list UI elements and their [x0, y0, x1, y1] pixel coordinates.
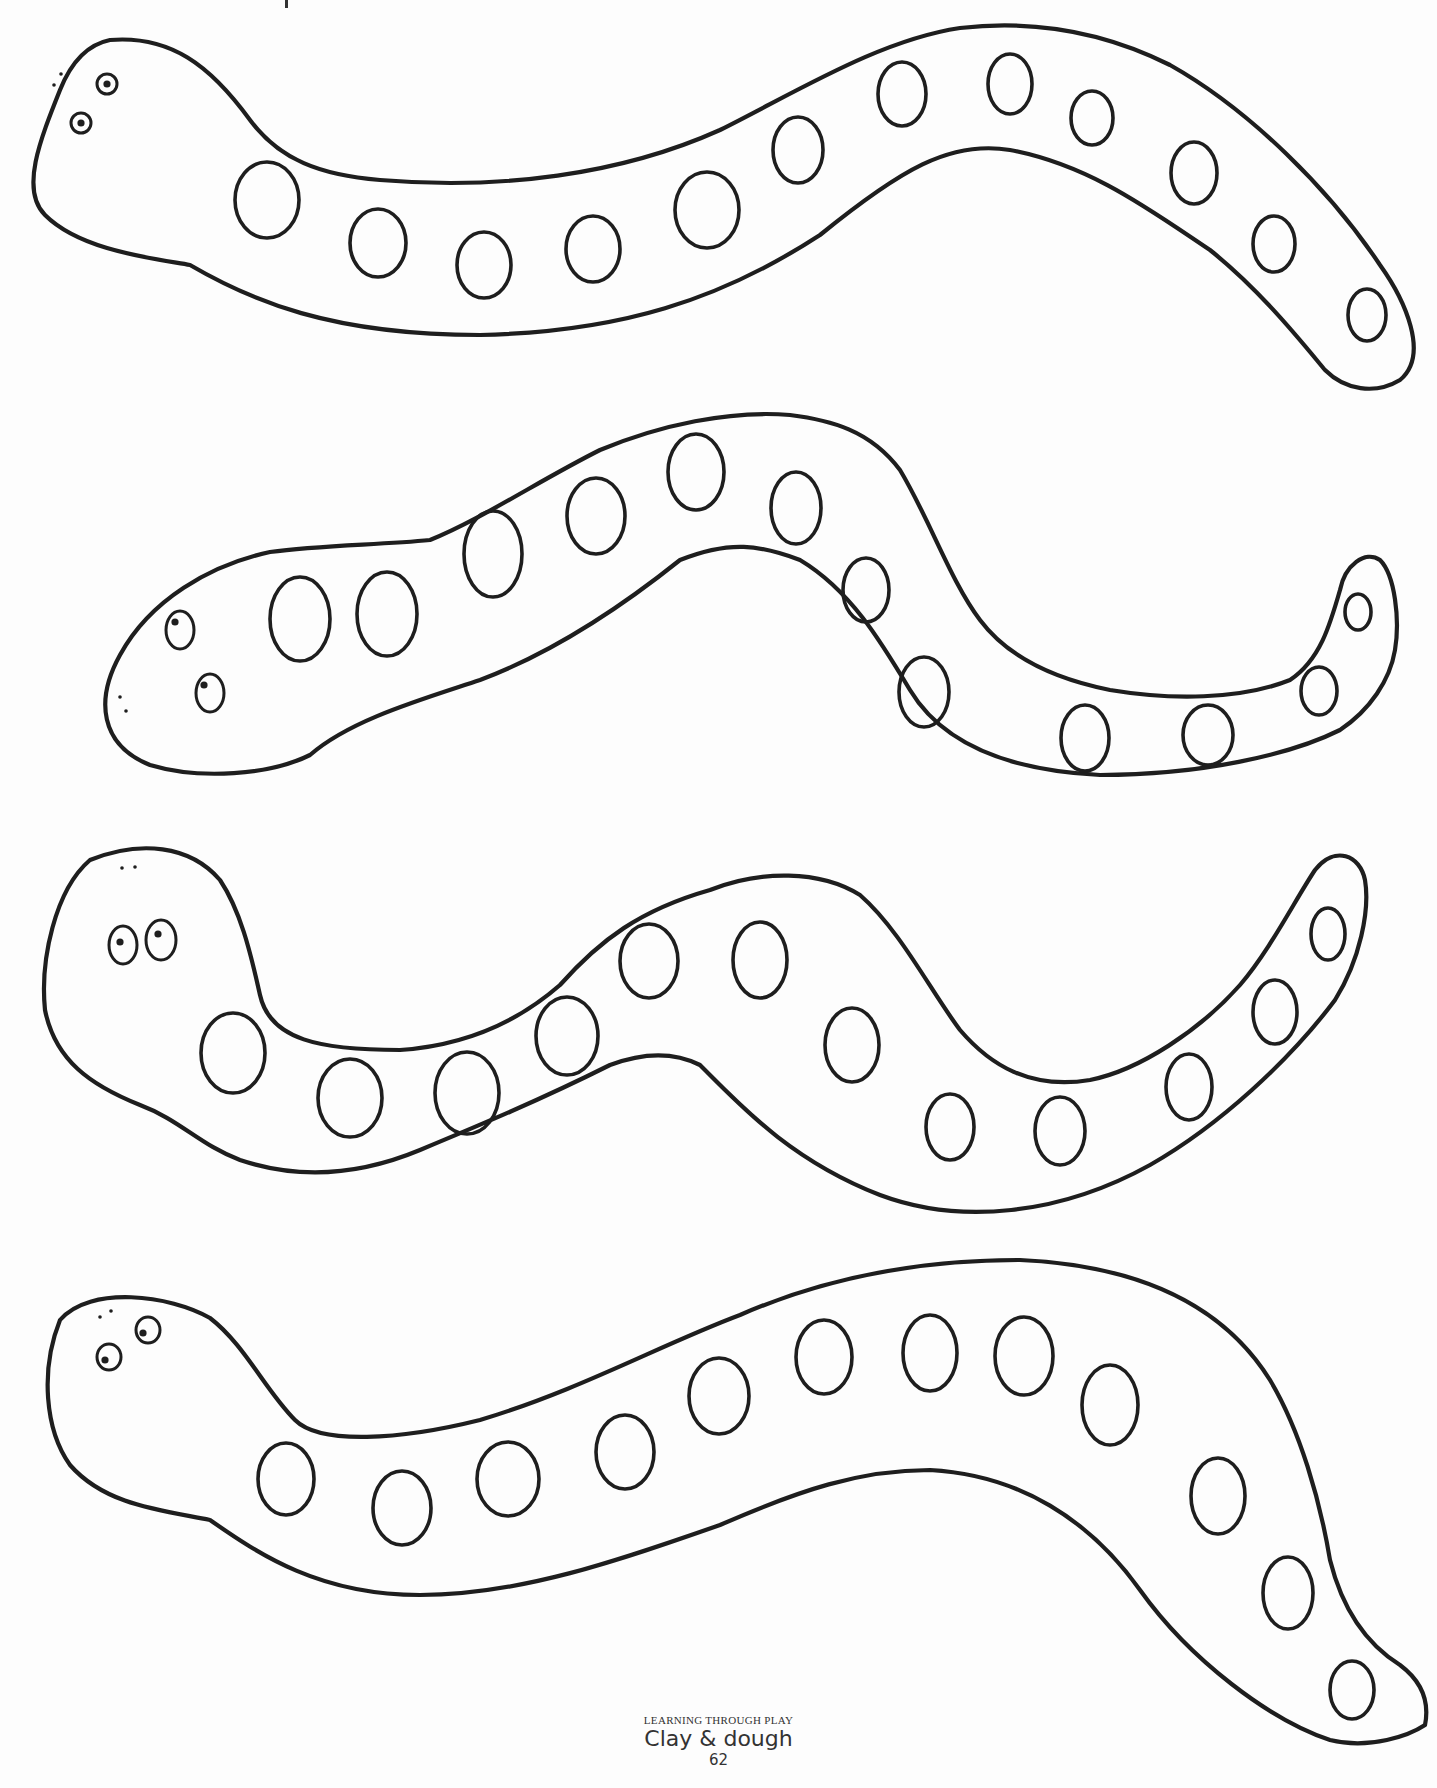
snake-nostril-dot — [133, 865, 137, 869]
snake-spot-circle — [825, 1008, 879, 1082]
top-text-fragment — [285, 0, 288, 8]
footer-page-number: 62 — [0, 1751, 1437, 1769]
snake-spot-circle — [1253, 980, 1297, 1044]
snake-eye-icon — [71, 113, 91, 133]
snake-spot-circle — [1171, 142, 1217, 204]
snake-figure — [33, 25, 1413, 388]
snake-eye-icon — [109, 926, 137, 964]
snake-eye-icon — [136, 1317, 160, 1343]
snake-nostril-dot — [118, 695, 122, 699]
snake-body-outline — [44, 848, 1366, 1212]
snake-spot-circle — [733, 922, 787, 998]
snake-nostril-dot — [109, 1309, 113, 1313]
snake-spot-circle — [668, 434, 724, 510]
snake-illustrations — [0, 0, 1437, 1788]
snake-spot-circle — [1035, 1097, 1085, 1165]
worksheet-page: LEARNING THROUGH PLAY Clay & dough 62 — [0, 0, 1437, 1788]
snake-spot-circle — [675, 172, 739, 248]
snake-spot-circle — [566, 216, 620, 282]
snake-spot-circle — [435, 1052, 499, 1134]
snake-spot-circle — [1071, 91, 1113, 145]
snake-spot-circle — [843, 558, 889, 622]
snake-spot-circle — [1311, 908, 1345, 960]
snake-spot-circle — [357, 572, 417, 656]
snake-spot-circle — [1253, 216, 1295, 272]
snake-spot-circle — [899, 657, 949, 727]
snake-eye-icon — [146, 920, 176, 960]
snake-spot-circle — [995, 1317, 1053, 1395]
snake-nostril-dot — [120, 866, 124, 870]
snake-spot-circle — [235, 162, 299, 238]
snake-spot-circle — [258, 1443, 314, 1515]
page-footer: LEARNING THROUGH PLAY Clay & dough 62 — [0, 1714, 1437, 1769]
snake-spot-circle — [903, 1315, 957, 1391]
snake-spot-circle — [201, 1013, 265, 1093]
snake-spot-circle — [878, 62, 926, 126]
snake-spot-circle — [457, 232, 511, 298]
snake-nostril-dot — [98, 1315, 102, 1319]
snake-eye-icon — [166, 611, 194, 649]
snakes-group — [33, 25, 1426, 1743]
snake-body-outline — [105, 414, 1397, 775]
snake-spot-circle — [1061, 705, 1109, 771]
snake-eye-icon — [196, 674, 224, 712]
snake-spot-circle — [567, 478, 625, 554]
snake-body-outline — [33, 25, 1413, 388]
snake-spot-circle — [620, 924, 678, 998]
snake-spot-circle — [536, 997, 598, 1075]
snake-spot-circle — [270, 577, 330, 661]
snake-spot-circle — [926, 1094, 974, 1160]
snake-spot-circle — [1301, 667, 1337, 715]
snake-spot-circle — [596, 1415, 654, 1489]
snake-figure — [44, 848, 1366, 1212]
snake-spot-circle — [1348, 289, 1386, 341]
snake-spot-circle — [689, 1358, 749, 1434]
snake-spot-circle — [477, 1442, 539, 1516]
snake-spot-circle — [350, 209, 406, 277]
snake-spot-circle — [1191, 1458, 1245, 1534]
footer-book-title: Clay & dough — [0, 1727, 1437, 1751]
snake-spot-circle — [1082, 1365, 1138, 1445]
snake-spot-circle — [464, 511, 522, 597]
snake-eye-icon — [97, 74, 117, 94]
snake-spot-circle — [318, 1059, 382, 1137]
snake-spot-circle — [771, 472, 821, 544]
snake-figure — [105, 414, 1397, 775]
snake-spot-circle — [1263, 1557, 1313, 1629]
snake-spot-circle — [1183, 705, 1233, 765]
snake-nostril-dot — [59, 72, 63, 76]
snake-spot-circle — [1345, 594, 1371, 630]
snake-eye-icon — [97, 1344, 121, 1370]
snake-spot-circle — [773, 117, 823, 183]
snake-spot-circle — [988, 54, 1032, 114]
snake-figure — [48, 1260, 1427, 1743]
snake-spot-circle — [1330, 1661, 1374, 1719]
snake-nostril-dot — [124, 709, 128, 713]
snake-spot-circle — [1166, 1054, 1212, 1120]
snake-spot-circle — [373, 1471, 431, 1545]
snake-nostril-dot — [52, 83, 56, 87]
snake-body-outline — [48, 1260, 1427, 1743]
snake-spot-circle — [796, 1320, 852, 1394]
